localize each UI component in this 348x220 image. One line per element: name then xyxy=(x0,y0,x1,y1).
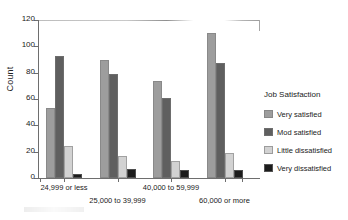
x-tick-mark xyxy=(171,178,172,182)
legend-item[interactable]: Little dissatisfied xyxy=(264,142,348,158)
bar xyxy=(216,63,225,178)
bar xyxy=(64,146,73,178)
legend-items: Very satisfiedMod satisfiedLittle dissat… xyxy=(264,106,348,176)
bar xyxy=(207,33,216,178)
legend-swatch-icon xyxy=(264,110,273,118)
y-tick-label: 60 xyxy=(26,93,35,102)
legend-item-label: Very satisfied xyxy=(277,110,322,119)
x-tick-mark xyxy=(225,178,226,182)
bar xyxy=(118,156,127,178)
bar xyxy=(234,170,243,178)
y-tick-label: 80 xyxy=(26,67,35,76)
legend-title: Job Satisfaction xyxy=(264,90,348,99)
bar xyxy=(73,174,82,178)
legend-item[interactable]: Very dissatisfied xyxy=(264,160,348,176)
x-category-label: 25,000 to 39,999 xyxy=(78,196,158,205)
bar xyxy=(171,161,180,178)
x-tick-mark xyxy=(40,178,41,182)
legend-swatch-icon xyxy=(264,128,273,136)
bar xyxy=(46,108,55,178)
bar xyxy=(225,153,234,178)
legend-swatch-icon xyxy=(264,164,273,172)
bar xyxy=(109,74,118,178)
y-tick-label: 20 xyxy=(26,146,35,155)
plot-area: 020406080100120 xyxy=(38,20,260,178)
legend-item-label: Mod satisfied xyxy=(277,128,321,137)
bar xyxy=(55,56,64,178)
bar xyxy=(162,98,171,178)
legend-item-label: Very dissatisfied xyxy=(277,164,331,173)
y-tick-label: 40 xyxy=(26,119,35,128)
scan-artifact xyxy=(24,207,84,212)
legend-swatch-icon xyxy=(264,146,273,154)
y-tick-label: 0 xyxy=(31,172,35,181)
bar xyxy=(180,170,189,178)
x-axis-line xyxy=(38,178,260,179)
y-axis-label: Count xyxy=(5,51,15,107)
bar xyxy=(153,81,162,178)
legend-item[interactable]: Very satisfied xyxy=(264,106,348,122)
bar-chart: Count 020406080100120 24,999 or less25,0… xyxy=(0,0,348,220)
bar xyxy=(100,60,109,179)
x-category-label: 40,000 to 59,999 xyxy=(131,183,211,192)
bar xyxy=(127,169,136,178)
x-tick-mark xyxy=(64,178,65,182)
plot-frame-right xyxy=(259,20,260,31)
y-tick-label: 100 xyxy=(22,40,35,49)
legend-item-label: Little dissatisfied xyxy=(277,146,332,155)
legend-item[interactable]: Mod satisfied xyxy=(264,124,348,140)
x-category-label: 60,000 or more xyxy=(185,196,265,205)
x-tick-mark xyxy=(242,178,243,182)
x-category-label: 24,999 or less xyxy=(24,183,104,192)
x-tick-mark xyxy=(118,178,119,182)
legend: Job Satisfaction Very satisfiedMod satis… xyxy=(264,90,348,178)
y-tick-label: 120 xyxy=(22,14,35,23)
plot-frame-top xyxy=(38,20,260,21)
